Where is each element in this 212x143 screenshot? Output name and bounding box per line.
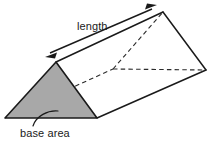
length-arrowhead-right: [145, 4, 157, 10]
base-area-label: base area: [20, 127, 70, 139]
length-label: length: [77, 20, 108, 32]
prism-diagram: length base area: [0, 0, 212, 143]
length-arrowhead-left: [45, 53, 57, 59]
